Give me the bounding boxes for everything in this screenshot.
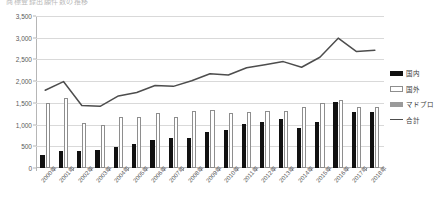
bar-国内 [40, 155, 44, 168]
bar-group [146, 16, 164, 168]
bar-国内 [297, 128, 301, 168]
legend-swatch-madpro [390, 102, 403, 107]
bar-group [73, 16, 91, 168]
y-tick-label: 0 [28, 165, 32, 172]
x-label-cell: 2007年 [164, 170, 182, 209]
bar-国内 [150, 140, 154, 168]
legend-label-foreign: 国外 [406, 84, 420, 94]
bar-国内 [59, 151, 63, 168]
bar-group [274, 16, 292, 168]
bar-国外 [137, 117, 141, 168]
legend-item-madpro[interactable]: マドプロ [390, 99, 434, 109]
bar-国外 [156, 113, 160, 168]
x-label-cell: 2010年 [219, 170, 237, 209]
legend-swatch-foreign [390, 86, 403, 92]
x-label-cell: 2004年 [109, 170, 127, 209]
bar-国内 [77, 151, 81, 168]
bar-国内 [333, 102, 337, 168]
x-label-cell: 2012年 [256, 170, 274, 209]
bar-国内 [242, 124, 246, 168]
bar-国内 [132, 144, 136, 168]
bar-国内 [370, 112, 374, 168]
bar-group [347, 16, 365, 168]
legend-item-foreign[interactable]: 国外 [390, 84, 434, 94]
legend-item-domestic[interactable]: 国内 [390, 68, 434, 78]
y-tick-label: 500 [21, 143, 32, 150]
bar-国外 [247, 112, 251, 168]
legend-item-total[interactable]: 合計 [390, 115, 434, 125]
legend-swatch-domestic [390, 71, 403, 76]
bar-国外 [320, 103, 324, 168]
bar-国外 [174, 117, 178, 168]
bar-国外 [101, 125, 105, 168]
bar-group [201, 16, 219, 168]
x-label-cell: 2008年 [183, 170, 201, 209]
bar-国内 [279, 119, 283, 168]
bar-group [237, 16, 255, 168]
bar-国内 [114, 147, 118, 168]
plot-area: 05001,0001,5002,0002,5003,0003,500 [36, 16, 384, 168]
bar-group [256, 16, 274, 168]
bar-国外 [265, 111, 269, 168]
x-label-cell: 2016年 [329, 170, 347, 209]
bar-国内 [187, 138, 191, 168]
bar-group [54, 16, 72, 168]
bar-国内 [205, 132, 209, 168]
x-label-cell: 2018年 [366, 170, 384, 209]
y-tick-label: 2,000 [16, 78, 32, 85]
bar-group [292, 16, 310, 168]
y-tick-label: 1,000 [16, 121, 32, 128]
bar-groups [36, 16, 384, 168]
bar-国外 [119, 117, 123, 168]
x-label-cell: 2003年 [91, 170, 109, 209]
bar-group [219, 16, 237, 168]
y-tick-label: 3,500 [16, 13, 32, 20]
bar-group [366, 16, 384, 168]
x-label-cell: 2011年 [237, 170, 255, 209]
bar-国外 [284, 111, 288, 168]
chart-title-clipped: 商標登録出願件数の推移 [6, 0, 89, 6]
chart-legend: 国内国外マドプロ合計 [390, 68, 434, 125]
legend-label-madpro: マドプロ [406, 99, 434, 109]
bar-国外 [192, 111, 196, 168]
bar-group [36, 16, 54, 168]
bar-国内 [260, 122, 264, 168]
x-label-cell: 2001年 [54, 170, 72, 209]
x-label-cell: 2009年 [201, 170, 219, 209]
bar-国外 [64, 98, 68, 168]
bar-国内 [352, 112, 356, 168]
bar-group [128, 16, 146, 168]
x-label-cell: 2006年 [146, 170, 164, 209]
bar-group [164, 16, 182, 168]
bar-国外 [357, 107, 361, 168]
legend-label-total: 合計 [406, 115, 420, 125]
bar-group [311, 16, 329, 168]
bar-国外 [229, 113, 233, 168]
x-label-cell: 2014年 [292, 170, 310, 209]
x-label-cell: 2000年 [36, 170, 54, 209]
y-tick-label: 2,500 [16, 56, 32, 63]
x-axis-labels: 2000年2001年2002年2003年2004年2005年2006年2007年… [36, 170, 384, 209]
bar-国外 [82, 123, 86, 168]
bar-国外 [210, 110, 214, 168]
bar-group [91, 16, 109, 168]
bar-国外 [339, 100, 343, 168]
legend-swatch-total [390, 119, 403, 121]
bar-group [329, 16, 347, 168]
bar-国外 [46, 103, 50, 168]
bar-国内 [315, 122, 319, 168]
x-label-cell: 2005年 [128, 170, 146, 209]
bar-国内 [95, 150, 99, 168]
y-tick-label: 3,000 [16, 34, 32, 41]
bar-国内 [169, 138, 173, 168]
x-label-cell: 2017年 [347, 170, 365, 209]
y-tick-label: 1,500 [16, 99, 32, 106]
x-label-cell: 2002年 [73, 170, 91, 209]
bar-group [109, 16, 127, 168]
chart-container: 商標登録出願件数の推移 05001,0001,5002,0002,5003,00… [0, 0, 435, 209]
bar-国外 [375, 107, 379, 168]
x-label-cell: 2013年 [274, 170, 292, 209]
x-label-cell: 2015年 [311, 170, 329, 209]
bar-国外 [302, 107, 306, 168]
legend-label-domestic: 国内 [406, 68, 420, 78]
